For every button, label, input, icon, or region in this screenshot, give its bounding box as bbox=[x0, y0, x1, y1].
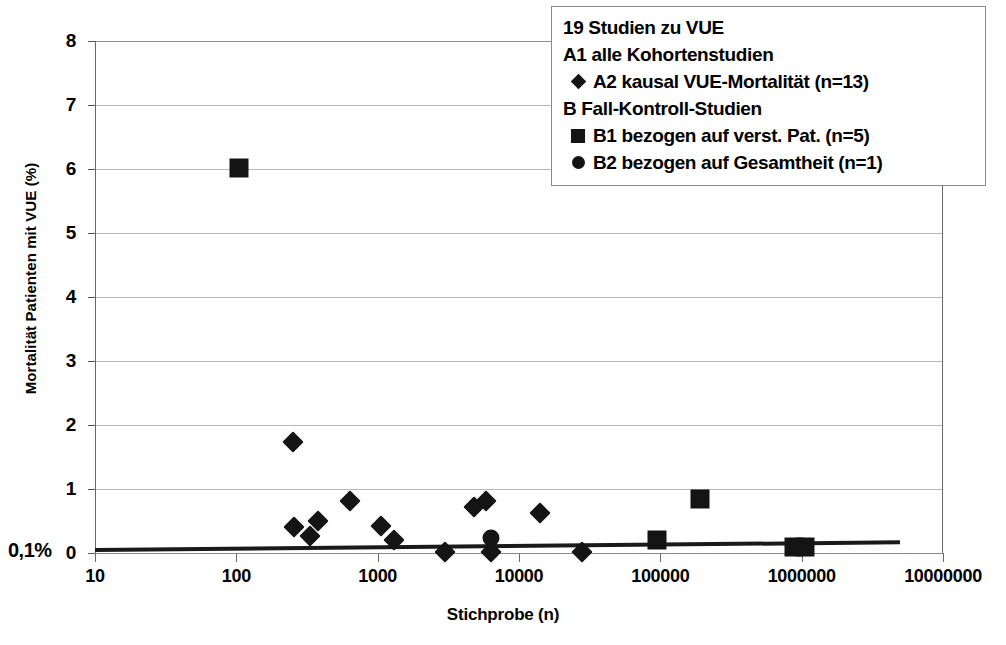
data-point-square-1-1 bbox=[648, 531, 667, 550]
gridline-y-1 bbox=[95, 489, 943, 490]
legend-row-0: 19 Studien zu VUE bbox=[563, 14, 985, 41]
legend-label-4: B1 bezogen auf verst. Pat. (n=5) bbox=[593, 125, 870, 147]
legend-diamond-icon bbox=[563, 76, 593, 87]
y-tick-label-7: 7 bbox=[36, 95, 76, 114]
x-axis-line bbox=[95, 553, 943, 554]
diamond-glyph bbox=[570, 74, 586, 90]
x-tick-label-1000: 1000 bbox=[358, 566, 397, 587]
x-tick-10 bbox=[95, 553, 96, 562]
gridline-y-5 bbox=[95, 233, 943, 234]
y-tick-label-2: 2 bbox=[36, 415, 76, 434]
x-tick-10000 bbox=[519, 553, 520, 562]
circle-glyph bbox=[572, 156, 585, 169]
y-axis-title: Mortalität Patienten mit VUE (%) bbox=[22, 89, 39, 469]
y-tick-label-3: 3 bbox=[36, 351, 76, 370]
data-point-circle-2-0 bbox=[482, 529, 499, 546]
legend-row-1: A1 alle Kohortenstudien bbox=[563, 41, 985, 68]
data-point-diamond-0-4 bbox=[340, 490, 361, 511]
legend-row-3: B Fall-Kontroll-Studien bbox=[563, 95, 985, 122]
y-tick-label-5: 5 bbox=[36, 223, 76, 242]
legend-row-2: A2 kausal VUE-Mortalität (n=13) bbox=[563, 68, 985, 95]
legend-label-0: 19 Studien zu VUE bbox=[563, 17, 724, 39]
data-point-square-1-0 bbox=[230, 158, 249, 177]
data-point-diamond-0-0 bbox=[282, 432, 303, 453]
legend-row-4: B1 bezogen auf verst. Pat. (n=5) bbox=[563, 122, 985, 149]
y-axis-line bbox=[95, 41, 96, 553]
gridline-y-2 bbox=[95, 425, 943, 426]
x-tick-label-10000000: 10000000 bbox=[904, 566, 982, 587]
x-tick-label-10: 10 bbox=[85, 566, 104, 587]
x-tick-label-100: 100 bbox=[222, 566, 251, 587]
x-tick-label-10000: 10000 bbox=[495, 566, 544, 587]
data-point-diamond-0-11 bbox=[529, 503, 550, 524]
legend-label-2: A2 kausal VUE-Mortalität (n=13) bbox=[593, 71, 869, 93]
gridline-y-4 bbox=[95, 297, 943, 298]
legend-circle-icon bbox=[563, 156, 593, 169]
data-point-square-1-2 bbox=[690, 489, 709, 508]
x-tick-100 bbox=[236, 553, 237, 562]
y-tick-label-8: 8 bbox=[36, 31, 76, 50]
scatter-chart: 012345678 101001000100001000001000000100… bbox=[0, 0, 1006, 645]
legend-label-5: B2 bezogen auf Gesamtheit (n=1) bbox=[593, 152, 883, 174]
gridline-y-3 bbox=[95, 361, 943, 362]
legend-label-3: B Fall-Kontroll-Studien bbox=[563, 98, 762, 120]
x-tick-label-100000: 100000 bbox=[631, 566, 689, 587]
x-tick-label-1000000: 1000000 bbox=[768, 566, 836, 587]
square-glyph bbox=[571, 129, 585, 143]
x-tick-100000 bbox=[660, 553, 661, 562]
legend-square-icon bbox=[563, 129, 593, 143]
y-tick-label-4: 4 bbox=[36, 287, 76, 306]
legend: 19 Studien zu VUEA1 alle Kohortenstudien… bbox=[551, 6, 986, 186]
legend-label-1: A1 alle Kohortenstudien bbox=[563, 44, 773, 66]
x-tick-1000 bbox=[378, 553, 379, 562]
x-axis-title: Stichprobe (n) bbox=[0, 605, 1006, 625]
data-point-square-1-4 bbox=[795, 537, 814, 556]
y-tick-label-6: 6 bbox=[36, 159, 76, 178]
x-tick-10000000 bbox=[943, 553, 944, 562]
y-tick-label-1: 1 bbox=[36, 479, 76, 498]
legend-row-5: B2 bezogen auf Gesamtheit (n=1) bbox=[563, 149, 985, 176]
annotation-0-1-percent: 0,1% bbox=[8, 539, 52, 562]
